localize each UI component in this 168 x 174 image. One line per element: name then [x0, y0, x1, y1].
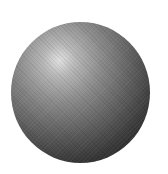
sphere-texture	[11, 22, 150, 163]
shaded-sphere	[11, 22, 150, 163]
